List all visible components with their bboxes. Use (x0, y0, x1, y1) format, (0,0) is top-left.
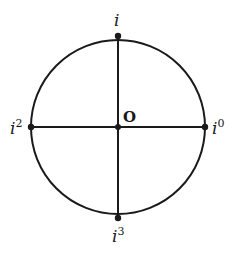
label-top: i (114, 10, 119, 30)
label-bottom: i3 (112, 225, 124, 246)
point-origin (115, 124, 121, 130)
unit-circle-diagram: i i2 i0 i3 O (0, 0, 238, 253)
label-left: i2 (10, 117, 22, 138)
point-left (28, 124, 34, 130)
label-origin: O (123, 108, 136, 126)
point-top (115, 33, 121, 39)
point-right (202, 124, 208, 130)
label-right: i0 (212, 117, 224, 138)
point-bottom (115, 215, 121, 221)
